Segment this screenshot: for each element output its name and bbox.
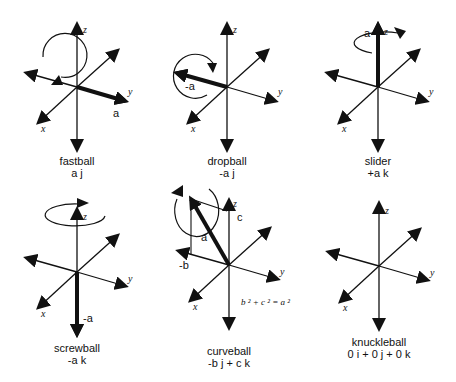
vector-label: a xyxy=(364,27,371,39)
component-b-label: -b xyxy=(179,259,189,271)
vector-label: a xyxy=(113,107,120,119)
x-axis-label: x xyxy=(192,301,198,312)
vector-label: -a xyxy=(83,312,94,324)
rotation-arrow xyxy=(43,33,87,77)
diagram-formula: a j xyxy=(71,167,83,179)
y-axis-label: y xyxy=(127,273,133,284)
z-axis-label: z xyxy=(82,211,87,222)
spin-vector xyxy=(77,87,125,101)
vector-label: a xyxy=(201,231,208,243)
diagram-slider: a z y x slider +a k xyxy=(328,25,434,179)
diagram-knuckleball: z y x knuckleball 0 i + 0 j + 0 k xyxy=(329,204,435,360)
z-axis-label: z xyxy=(232,198,237,209)
diagram-title: curveball xyxy=(207,345,251,357)
diagram-formula: +a k xyxy=(367,167,389,179)
y-axis-label: y xyxy=(279,266,285,277)
rotation-arrowhead xyxy=(171,185,183,197)
diagram-dropball: z y x -a dropball -a j xyxy=(173,24,283,179)
y-axis-label: y xyxy=(277,86,283,97)
x-axis-label: x xyxy=(40,308,46,319)
diagram-formula: -b j + c k xyxy=(208,357,250,369)
pythagorean-equation: b ² + c ² = a ² xyxy=(241,297,290,307)
diagram-curveball: z c a -b y x b ² + c ² = a ² curveball -… xyxy=(171,185,290,369)
y-axis-label: y xyxy=(127,86,133,97)
diagram-screwball: z y x -a screwball -a k xyxy=(27,198,133,366)
diagram-formula: -a k xyxy=(68,354,87,366)
diagram-formula: -a j xyxy=(219,167,234,179)
z-axis-label: z xyxy=(232,24,237,35)
y-axis-label: y xyxy=(428,86,434,97)
rotation-arrow xyxy=(45,204,105,226)
diagram-fastball: z y x a fastball a j xyxy=(27,24,133,179)
z-axis-label: z xyxy=(82,24,87,35)
y-axis-label: y xyxy=(429,267,435,278)
diagram-title: fastball xyxy=(60,155,95,167)
diagram-formula: 0 i + 0 j + 0 k xyxy=(348,348,411,360)
spin-axis-diagrams: z y x a fastball a j z y x -a dropball -… xyxy=(0,0,456,382)
z-axis-label: z xyxy=(384,205,389,216)
rotation-arrowhead xyxy=(77,198,89,208)
diagram-title: knuckleball xyxy=(352,336,406,348)
vector-label: -a xyxy=(185,80,196,92)
rotation-arrowhead xyxy=(207,63,217,73)
diagram-title: screwball xyxy=(54,342,100,354)
x-axis-label: x xyxy=(190,123,196,134)
component-c-label: c xyxy=(237,211,243,223)
x-axis-label: x xyxy=(40,123,46,134)
x-axis-label: x xyxy=(342,302,348,313)
diagram-title: dropball xyxy=(207,155,246,167)
diagram-title: slider xyxy=(365,155,392,167)
z-axis-label: z xyxy=(383,26,388,37)
x-axis-label: x xyxy=(341,123,347,134)
